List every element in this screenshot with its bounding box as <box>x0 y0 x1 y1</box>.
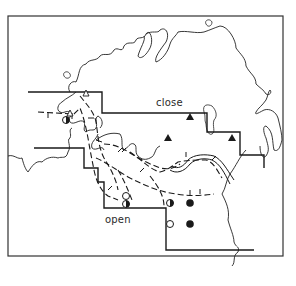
open-label: open <box>105 214 131 225</box>
filled-circle-marker <box>186 220 194 228</box>
coastline-inlet <box>96 133 160 159</box>
open-triangle-marker <box>83 90 89 96</box>
map-figure <box>0 0 296 286</box>
open-circle-marker <box>123 193 130 200</box>
close-label: close <box>156 97 183 108</box>
island <box>64 72 71 78</box>
island <box>206 20 212 26</box>
coastline-west <box>8 92 102 172</box>
close-boundary-line <box>28 92 264 168</box>
estuary <box>204 105 217 134</box>
filled-circle-marker <box>186 199 194 207</box>
map-frame <box>8 16 283 256</box>
open-circle-marker <box>167 221 174 228</box>
filled-triangle-markers <box>164 113 236 141</box>
river-double-line <box>170 159 230 184</box>
